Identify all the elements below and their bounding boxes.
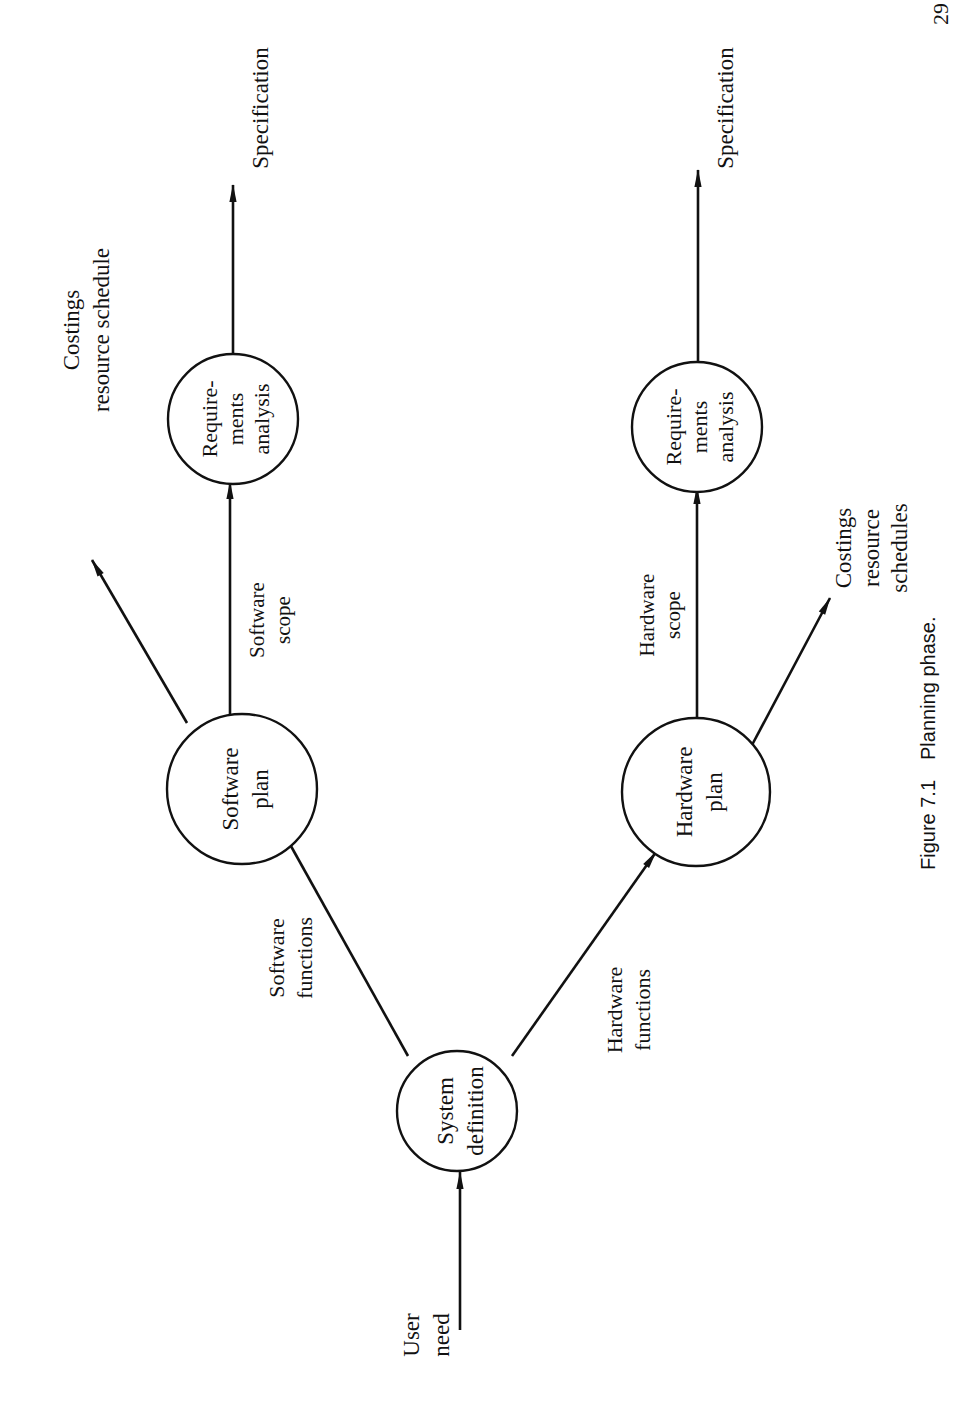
label-software-functions: Software functions bbox=[264, 917, 317, 999]
node-sw-requirements-analysis: Require- ments analysis bbox=[168, 354, 298, 484]
label-software-scope: Software scope bbox=[245, 582, 295, 658]
svg-text:analysis: analysis bbox=[713, 392, 738, 463]
svg-text:analysis: analysis bbox=[249, 384, 274, 455]
node-hw-requirements-analysis: Require- ments analysis bbox=[632, 362, 762, 492]
svg-text:System: System bbox=[433, 1077, 458, 1145]
label-user-need: User need bbox=[399, 1313, 454, 1357]
svg-text:functions: functions bbox=[630, 969, 655, 1051]
svg-text:Hardware: Hardware bbox=[672, 747, 697, 838]
svg-text:Require-: Require- bbox=[661, 389, 686, 466]
svg-text:29: 29 bbox=[928, 3, 953, 25]
label-sw-costings: Costings resource schedule bbox=[59, 248, 114, 412]
label-sw-specification: Specification bbox=[248, 47, 273, 169]
svg-text:Hardware: Hardware bbox=[635, 574, 659, 657]
svg-text:need: need bbox=[429, 1313, 454, 1357]
svg-text:ments: ments bbox=[223, 393, 248, 446]
figure-title: Planning phase. bbox=[917, 617, 939, 760]
svg-text:plan: plan bbox=[702, 772, 727, 812]
svg-text:Costings: Costings bbox=[59, 290, 84, 371]
planning-phase-diagram: 29 System definition Software plan Hardw… bbox=[0, 0, 963, 1406]
figure-number: Figure 7.1 bbox=[917, 780, 939, 870]
label-hardware-functions: Hardware functions bbox=[602, 967, 655, 1054]
node-hardware-plan: Hardware plan bbox=[622, 718, 770, 866]
svg-text:Software: Software bbox=[218, 747, 243, 830]
svg-text:Software: Software bbox=[245, 582, 269, 658]
svg-text:Hardware: Hardware bbox=[602, 967, 627, 1054]
svg-text:scope: scope bbox=[271, 596, 295, 644]
svg-text:plan: plan bbox=[248, 769, 273, 809]
svg-text:Specification: Specification bbox=[713, 47, 738, 169]
svg-text:ments: ments bbox=[687, 401, 712, 454]
label-hardware-scope: Hardware scope bbox=[635, 574, 685, 657]
node-software-plan: Software plan bbox=[167, 714, 317, 864]
svg-text:definition: definition bbox=[463, 1066, 488, 1156]
svg-text:scope: scope bbox=[661, 591, 685, 639]
figure-caption: Figure 7.1 Planning phase. bbox=[917, 617, 939, 870]
svg-text:resource schedule: resource schedule bbox=[89, 248, 114, 412]
svg-text:functions: functions bbox=[292, 917, 317, 999]
page-number: 29 bbox=[928, 3, 953, 25]
svg-text:Software: Software bbox=[264, 918, 289, 997]
svg-text:User: User bbox=[399, 1313, 424, 1357]
svg-text:Require-: Require- bbox=[197, 381, 222, 458]
svg-text:schedules: schedules bbox=[887, 503, 912, 592]
label-hw-costings: Costings resource schedules bbox=[831, 503, 912, 592]
edge-hw-costings bbox=[752, 598, 830, 745]
edge-sw-costings bbox=[92, 560, 187, 723]
svg-text:resource: resource bbox=[859, 509, 884, 587]
node-system-definition: System definition bbox=[397, 1051, 517, 1171]
label-hw-specification: Specification bbox=[713, 47, 738, 169]
svg-text:Costings: Costings bbox=[831, 508, 856, 589]
svg-text:Specification: Specification bbox=[248, 47, 273, 169]
